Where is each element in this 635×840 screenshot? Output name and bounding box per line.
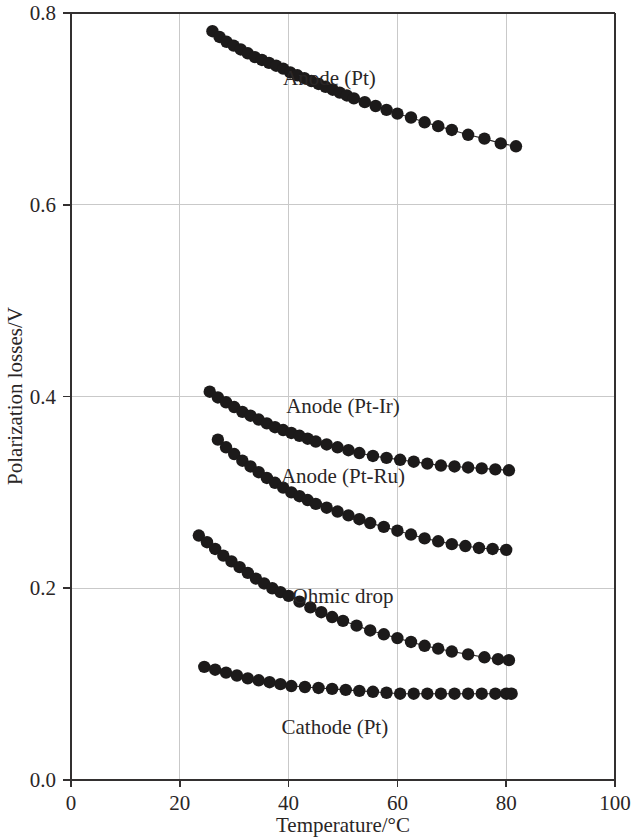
y-tick-label: 0.6 (30, 193, 56, 217)
data-point (231, 669, 243, 681)
data-point (367, 450, 379, 462)
data-point (492, 653, 504, 665)
data-point (462, 129, 474, 141)
data-point (263, 676, 275, 688)
data-point (476, 688, 488, 700)
data-point (252, 674, 264, 686)
data-point (446, 645, 458, 657)
data-point (448, 688, 460, 700)
data-point (274, 678, 286, 690)
data-point (435, 459, 447, 471)
data-point (478, 132, 490, 144)
data-point (476, 462, 488, 474)
data-point (408, 455, 420, 467)
data-point (408, 688, 420, 700)
data-point (242, 672, 254, 684)
x-tick-label: 100 (599, 791, 631, 815)
series-label-1: Anode (Pt-Ir) (286, 394, 400, 418)
data-point (495, 137, 507, 149)
data-point (421, 457, 433, 469)
data-point (369, 100, 381, 112)
data-point (342, 444, 354, 456)
data-point (462, 688, 474, 700)
data-point (489, 463, 501, 475)
data-point (391, 632, 403, 644)
data-point (337, 615, 349, 627)
data-point (378, 628, 390, 640)
data-point (367, 686, 379, 698)
data-point (364, 517, 376, 529)
data-point (331, 441, 343, 453)
data-point (320, 502, 332, 514)
data-point (353, 685, 365, 697)
data-point (418, 532, 430, 544)
data-point (462, 648, 474, 660)
y-tick-label: 0.0 (30, 768, 56, 792)
data-point (380, 104, 392, 116)
data-point (446, 538, 458, 550)
data-point (510, 140, 522, 152)
data-point (391, 107, 403, 119)
data-point (350, 619, 362, 631)
data-point (331, 505, 343, 517)
series-label-2: Anode (Pt-Ru) (281, 464, 405, 488)
polarization-losses-chart: 0204060801000.00.20.40.60.8 Anode (Pt)An… (0, 0, 635, 840)
x-tick-label: 20 (169, 791, 190, 815)
y-tick-label: 0.4 (30, 385, 57, 409)
x-axis-title: Temperature/°C (276, 813, 410, 837)
data-point (312, 682, 324, 694)
data-point (462, 461, 474, 473)
series-label-4: Cathode (Pt) (281, 715, 388, 739)
data-point (353, 447, 365, 459)
y-tick-label: 0.8 (30, 1, 56, 25)
data-point (405, 111, 417, 123)
data-point (486, 543, 498, 555)
y-axis-title: Polarization losses/V (3, 307, 27, 485)
data-point (489, 688, 501, 700)
data-point (342, 509, 354, 521)
data-point (418, 116, 430, 128)
data-point (421, 688, 433, 700)
data-point (432, 642, 444, 654)
data-point (198, 661, 210, 673)
data-point (364, 624, 376, 636)
data-point (478, 651, 490, 663)
data-point (446, 124, 458, 136)
data-point (432, 535, 444, 547)
data-point (448, 460, 460, 472)
data-point (394, 688, 406, 700)
chart-figure: 0204060801000.00.20.40.60.8 Anode (Pt)An… (0, 0, 635, 840)
data-point (503, 464, 515, 476)
data-point (326, 611, 338, 623)
data-point (285, 680, 297, 692)
x-tick-label: 80 (496, 791, 517, 815)
data-point (220, 666, 232, 678)
series-label-0: Anode (Pt) (283, 66, 376, 90)
data-point (209, 664, 221, 676)
data-point (405, 528, 417, 540)
data-point (459, 540, 471, 552)
data-point (353, 513, 365, 525)
data-point (473, 542, 485, 554)
data-point (315, 606, 327, 618)
data-point (310, 435, 322, 447)
y-tick-label: 0.2 (30, 576, 56, 600)
data-point (503, 654, 515, 666)
x-tick-label: 60 (387, 791, 408, 815)
data-point (378, 521, 390, 533)
x-tick-label: 0 (66, 791, 77, 815)
data-point (505, 688, 517, 700)
data-point (405, 636, 417, 648)
data-point (320, 438, 332, 450)
data-point (500, 544, 512, 556)
series-label-3: Ohmic drop (293, 584, 394, 608)
data-point (340, 684, 352, 696)
data-point (359, 96, 371, 108)
data-point (432, 120, 444, 132)
x-tick-label: 40 (278, 791, 299, 815)
data-point (435, 688, 447, 700)
data-point (391, 525, 403, 537)
data-point (310, 498, 322, 510)
data-point (326, 683, 338, 695)
data-point (299, 681, 311, 693)
